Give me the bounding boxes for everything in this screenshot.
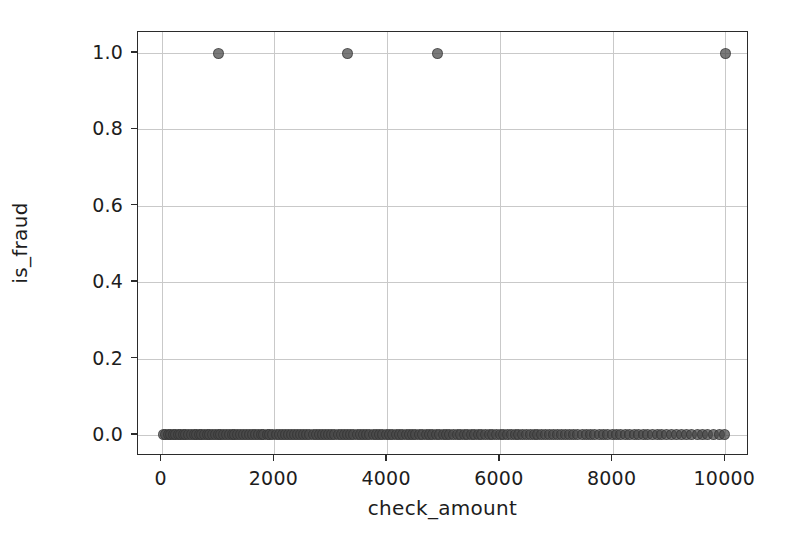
gridline-horizontal-3 [138,206,747,207]
gridline-vertical-4 [613,32,614,454]
x-tick-label-3: 6000 [474,467,523,489]
x-tick-label-2: 4000 [362,467,411,489]
y-tick-mark-2 [131,280,137,281]
x-tick-label-1: 2000 [249,467,298,489]
x-tick-mark-5 [724,455,725,461]
y-tick-label-5: 1.0 [59,41,123,63]
gridline-vertical-1 [274,32,275,454]
y-tick-label-3: 0.6 [59,194,123,216]
y-tick-mark-5 [131,51,137,52]
gridline-horizontal-1 [138,359,747,360]
gridline-vertical-0 [162,32,163,454]
data-point [213,48,224,59]
gridline-vertical-3 [500,32,501,454]
x-tick-label-5: 10000 [694,467,755,489]
x-tick-label-4: 8000 [587,467,636,489]
y-tick-label-1: 0.2 [59,347,123,369]
y-tick-label-2: 0.4 [59,270,123,292]
y-tick-mark-0 [131,433,137,434]
plot-area [137,31,748,455]
y-tick-mark-3 [131,204,137,205]
x-tick-mark-1 [273,455,274,461]
gridline-vertical-2 [387,32,388,454]
figure-canvas: 0200040006000800010000 0.00.20.40.60.81.… [0,0,789,545]
data-point [432,48,443,59]
gridline-vertical-5 [725,32,726,454]
y-tick-label-4: 0.8 [59,117,123,139]
x-tick-mark-4 [611,455,612,461]
x-tick-mark-0 [160,455,161,461]
gridline-horizontal-2 [138,282,747,283]
x-tick-label-0: 0 [155,467,167,489]
x-tick-mark-2 [385,455,386,461]
y-tick-mark-4 [131,128,137,129]
data-point [720,48,731,59]
gridline-horizontal-4 [138,129,747,130]
y-tick-mark-1 [131,357,137,358]
y-tick-label-0: 0.0 [59,423,123,445]
data-point [342,48,353,59]
x-axis-label: check_amount [137,496,748,520]
x-tick-mark-3 [498,455,499,461]
data-point [719,429,730,440]
y-axis-label: is_fraud [8,202,32,283]
